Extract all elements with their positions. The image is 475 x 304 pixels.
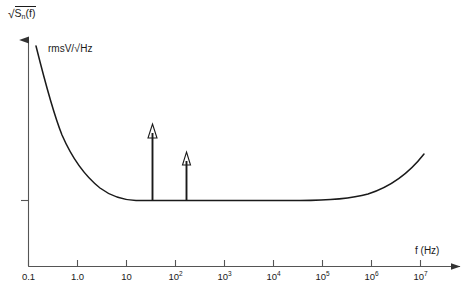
y-axis-label-body: S bbox=[15, 7, 22, 19]
units-label: rmsV/√Hz bbox=[48, 43, 92, 54]
y-axis-label: √Sn(f) bbox=[8, 6, 36, 19]
spectral-line-1 bbox=[148, 124, 157, 201]
x-tick-label: 107 bbox=[401, 272, 441, 282]
units-label-denominator: Hz bbox=[80, 43, 92, 54]
x-axis-label: f (Hz) bbox=[415, 246, 439, 256]
x-tick-label: 1.0 bbox=[58, 272, 98, 282]
noise-spectral-density-figure: √Sn(f) rmsV/√Hz f (Hz) 0.11.010102103104… bbox=[0, 0, 475, 304]
units-label-numerator: rmsV/ bbox=[48, 43, 74, 54]
spectral-line-2 bbox=[183, 152, 191, 201]
x-tick-label: 0.1 bbox=[9, 272, 49, 282]
y-axis-label-subscript: n bbox=[22, 13, 26, 20]
x-tick-label: 10 bbox=[107, 272, 147, 282]
x-axis-ticks bbox=[29, 260, 421, 267]
noise-spectral-density-curve bbox=[36, 46, 424, 201]
x-tick-label: 104 bbox=[254, 272, 294, 282]
y-axis-label-radicand: Sn(f) bbox=[15, 6, 37, 19]
radical-sign-icon: √ bbox=[8, 8, 15, 20]
y-axis-label-tail: (f) bbox=[26, 7, 36, 19]
x-tick-label: 105 bbox=[303, 272, 343, 282]
x-tick-label: 102 bbox=[156, 272, 196, 282]
x-tick-label: 103 bbox=[205, 272, 245, 282]
x-tick-label: 106 bbox=[352, 272, 392, 282]
